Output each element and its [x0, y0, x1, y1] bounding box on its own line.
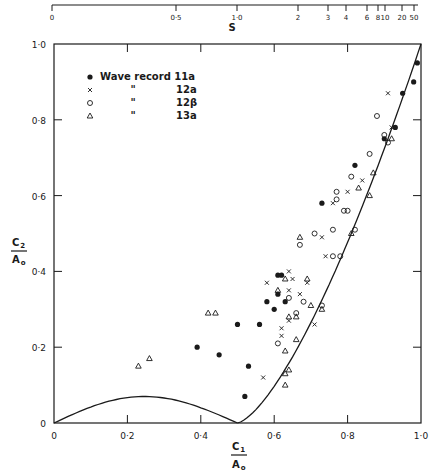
- x-label-denominator: Ao: [232, 459, 246, 472]
- data-point: [246, 364, 251, 369]
- data-point: [330, 254, 335, 259]
- data-point: [286, 367, 292, 372]
- s-tick-label: 2: [296, 14, 300, 22]
- data-point: [352, 163, 357, 168]
- legend-label: 13a: [176, 110, 197, 121]
- y-axis-label: C2 Ao: [11, 237, 27, 267]
- series-13a: [136, 136, 395, 387]
- y-tick-label: 0: [40, 419, 46, 429]
- data-point: [195, 345, 200, 350]
- data-point: [298, 292, 302, 296]
- data-point: [312, 231, 317, 236]
- data-point: [320, 235, 324, 239]
- y-tick-label: 0·6: [32, 192, 47, 202]
- data-point: [287, 288, 291, 292]
- data-point: [272, 307, 277, 312]
- data-point: [261, 376, 265, 380]
- legend-marker-icon: [87, 113, 93, 118]
- legend: Wave record 11a"12a"12β"13a: [87, 71, 197, 121]
- data-point: [319, 201, 324, 206]
- data-point: [301, 299, 306, 304]
- y-tick-label: 0·4: [32, 267, 47, 277]
- data-point: [147, 356, 153, 361]
- data-point: [136, 363, 142, 368]
- data-point: [275, 341, 280, 346]
- data-point: [264, 299, 269, 304]
- legend-label: 12β: [176, 97, 197, 108]
- s-tick-label: 10: [381, 14, 390, 22]
- s-tick-label: 0: [50, 14, 54, 22]
- series-wave-record-11a: [195, 60, 420, 399]
- x-tick-label: 0: [51, 431, 57, 441]
- data-point: [360, 178, 364, 182]
- s-tick-label: 6: [365, 14, 370, 22]
- data-point: [286, 295, 291, 300]
- data-point: [297, 234, 303, 239]
- data-point: [293, 337, 299, 342]
- data-point: [242, 394, 247, 399]
- data-point: [334, 189, 339, 194]
- data-point: [279, 273, 284, 278]
- boundary-curves: [54, 44, 421, 423]
- data-point: [374, 114, 379, 119]
- data-point: [287, 269, 291, 273]
- legend-marker-icon: [87, 74, 92, 79]
- legend-ditto: ": [130, 97, 135, 108]
- data-point: [334, 197, 339, 202]
- s-tick-label: 3: [326, 14, 330, 22]
- data-point: [257, 322, 262, 327]
- s-tick-label: 0·5: [170, 14, 181, 22]
- data-point: [205, 310, 211, 315]
- data-point: [304, 276, 310, 281]
- data-point: [213, 310, 219, 315]
- data-point: [330, 227, 335, 232]
- data-point: [265, 281, 269, 285]
- legend-marker-icon: [88, 101, 93, 106]
- x-tick-label: 0·6: [267, 431, 282, 441]
- data-point: [346, 190, 350, 194]
- data-point: [386, 91, 390, 95]
- data-point: [313, 322, 317, 326]
- data-point: [308, 303, 314, 308]
- data-point: [217, 352, 222, 357]
- x-label-numerator: C1: [232, 441, 245, 454]
- data-point: [282, 382, 288, 387]
- y-tick-label: 0·8: [32, 116, 47, 126]
- x-axis-label: C1 Ao: [231, 441, 247, 472]
- data-point: [345, 208, 350, 213]
- y-tick-label: 0·2: [32, 343, 46, 353]
- boundary-curve: [238, 44, 422, 423]
- data-point: [400, 91, 405, 96]
- x-tick-label: 0·8: [340, 431, 355, 441]
- data-point: [356, 185, 362, 190]
- y-label-numerator: C2: [12, 237, 25, 250]
- series-12a: [261, 91, 393, 379]
- data-point: [286, 314, 292, 319]
- data-point: [324, 254, 328, 258]
- axis-labels: S C2 Ao C1 Ao: [11, 22, 247, 472]
- lower-arc-curve: [54, 397, 238, 424]
- series-12β: [275, 114, 390, 346]
- data-point: [235, 322, 240, 327]
- data-point: [411, 79, 416, 84]
- x-tick-label: 0·2: [120, 431, 134, 441]
- legend-label: Wave record 11a: [100, 71, 195, 82]
- s-axis-label: S: [228, 22, 235, 33]
- legend-label: 12a: [176, 84, 197, 95]
- scatter-chart: 00·51·023468102050 000·20·20·40·40·60·60…: [0, 0, 435, 476]
- x-tick-label: 1·0: [414, 431, 429, 441]
- data-point: [291, 277, 295, 281]
- data-point: [389, 136, 395, 141]
- legend-marker-icon: [88, 88, 92, 92]
- data-point: [331, 201, 335, 205]
- data-point: [280, 334, 284, 338]
- data-point: [415, 60, 420, 65]
- x-tick-label: 0·4: [194, 431, 209, 441]
- s-tick-label: 50: [410, 14, 419, 22]
- y-tick-label: 1·0: [32, 40, 47, 50]
- data-point: [297, 242, 302, 247]
- data-point: [282, 348, 288, 353]
- data-point: [280, 326, 284, 330]
- s-tick-label: 1·0: [231, 14, 242, 22]
- data-point: [349, 174, 354, 179]
